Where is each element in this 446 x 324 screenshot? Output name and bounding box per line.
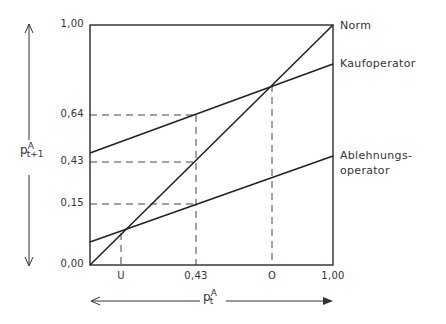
x-axis-variable: pAt — [203, 288, 213, 306]
ablehnungsoperator-line — [90, 156, 333, 242]
y-tick-0-00: 0,00 — [44, 258, 84, 269]
x-arrowhead-right — [323, 297, 333, 305]
kaufoperator-line — [90, 64, 333, 153]
y-tick-0-15: 0,15 — [44, 197, 84, 208]
ablehnungsoperator-label-line1: Ablehnungs- — [340, 149, 412, 162]
x-tick-1-00: 1,00 — [313, 270, 353, 281]
x-tick-u: U — [101, 270, 141, 281]
ablehnungsoperator-label-line2: operator — [340, 164, 390, 177]
kaufoperator-label: Kaufoperator — [340, 57, 416, 70]
x-tick-0-43: 0,43 — [176, 270, 216, 281]
y-tick-1-00: 1,00 — [44, 18, 84, 29]
y-tick-0-64: 0,64 — [44, 108, 84, 119]
y-tick-0-43: 0,43 — [44, 155, 84, 166]
x-tick-o: O — [252, 270, 292, 281]
y-axis-variable: pAt+1 — [20, 141, 44, 159]
norm-label: Norm — [340, 19, 371, 32]
